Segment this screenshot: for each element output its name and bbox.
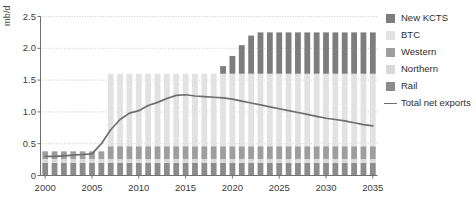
bar-segment-rail [370,163,376,176]
legend-color-swatch [386,65,395,74]
legend-color-swatch [386,82,395,91]
bar-segment-btc [248,74,254,146]
bar-segment-new-kcts [314,32,320,73]
bar-segment-northern [295,159,301,163]
bar-segment-western [370,146,376,159]
bar-segment-btc [183,74,189,146]
bar-segment-new-kcts [351,32,357,73]
bar-segment-northern [127,159,133,163]
bar-segment-new-kcts [342,32,348,73]
bar-segment-western [98,151,104,159]
bar-segment-western [192,146,198,159]
bar-segment-northern [42,159,48,163]
y-tick-label: 1.5 [23,75,36,85]
bar-segment-western [361,146,367,159]
bar-segment-northern [61,159,67,163]
bar-segment-western [201,146,207,159]
bar-segment-rail [239,163,245,176]
bar-segment-rail [173,163,179,176]
bar-segment-btc [108,74,114,146]
legend-item[interactable]: Western [386,44,476,60]
x-tick-label: 2020 [212,183,252,193]
bar-segment-northern [201,159,207,163]
legend-item[interactable]: New KCTS [386,10,476,26]
bar-segment-rail [127,163,133,176]
bar-segment-new-kcts [239,45,245,74]
bar-segment-northern [211,159,217,163]
bar-segment-northern [183,159,189,163]
x-tick-label: 2025 [259,183,299,193]
x-tick-label: 2010 [119,183,159,193]
bar-segment-new-kcts [286,32,292,73]
chart-legend: New KCTSBTCWesternNorthernRailTotal net … [386,10,476,112]
bar-segment-new-kcts [323,32,329,73]
bar-segment-western [276,146,282,159]
bar-segment-btc [258,74,264,146]
bar-segment-rail [164,163,170,176]
bar-segment-rail [89,163,95,176]
bar-segment-western [239,146,245,159]
bar-segment-western [248,146,254,159]
bar-segment-rail [108,163,114,176]
bar-segment-northern [220,159,226,163]
bar-segment-new-kcts [230,56,236,74]
bar-segment-rail [61,163,67,176]
bar-segment-new-kcts [361,32,367,73]
bar-segment-rail [361,163,367,176]
bar-segment-northern [239,159,245,163]
bar-segment-western [286,146,292,159]
bar-segment-northern [230,159,236,163]
legend-item[interactable]: BTC [386,27,476,43]
bar-segment-northern [323,159,329,163]
bar-segment-northern [351,159,357,163]
bar-segment-western [127,146,133,159]
bar-segment-btc [145,74,151,146]
bar-segment-northern [276,159,282,163]
bar-segment-btc [304,74,310,146]
bar-segment-rail [52,163,58,176]
bar-segment-northern [80,159,86,163]
bar-segment-western [136,146,142,159]
bar-segment-western [258,146,264,159]
bar-segment-new-kcts [220,66,226,74]
bar-segment-northern [332,159,338,163]
bar-segment-rail [286,163,292,176]
bar-segment-western [295,146,301,159]
x-tick-label: 2035 [353,183,393,193]
x-tick-label: 2005 [72,183,112,193]
bar-segment-northern [155,159,161,163]
legend-item[interactable]: Total net exports [386,95,476,111]
bar-segment-northern [173,159,179,163]
bar-segment-northern [267,159,273,163]
bar-segment-western [304,146,310,159]
bar-segment-rail [98,163,104,176]
bar-segment-rail [201,163,207,176]
bar-segment-btc [164,74,170,146]
bar-segment-northern [89,159,95,163]
bar-segment-new-kcts [276,32,282,73]
bar-segment-new-kcts [267,32,273,73]
bar-segment-rail [220,163,226,176]
bar-segment-northern [98,159,104,163]
legend-label: Total net exports [401,98,471,108]
bar-segment-rail [155,163,161,176]
bar-segment-western [145,146,151,159]
legend-item[interactable]: Rail [386,78,476,94]
bar-segment-western [332,146,338,159]
bar-segment-rail [342,163,348,176]
bar-segment-northern [117,159,123,163]
bar-segment-western [314,146,320,159]
bar-segment-rail [276,163,282,176]
bar-segment-new-kcts [332,32,338,73]
x-tick-label: 2015 [166,183,206,193]
bar-segment-western [52,151,58,159]
bar-segment-western [42,151,48,159]
bar-segment-rail [211,163,217,176]
legend-item[interactable]: Northern [386,61,476,77]
bar-segment-western [108,146,114,159]
legend-label: Rail [401,81,417,91]
legend-color-swatch [386,48,395,57]
bar-segment-northern [342,159,348,163]
bar-segment-rail [332,163,338,176]
bar-segment-new-kcts [248,36,254,74]
